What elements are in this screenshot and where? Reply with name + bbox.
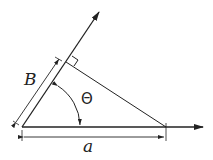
label-b: B [24, 69, 37, 89]
right-angle-marker [72, 56, 78, 66]
angle-arc [58, 86, 80, 125]
dimension-line-b [16, 59, 59, 122]
label-theta: Θ [81, 90, 93, 108]
label-a: a [83, 136, 93, 156]
vector-projection-diagram: B a Θ [0, 0, 213, 160]
